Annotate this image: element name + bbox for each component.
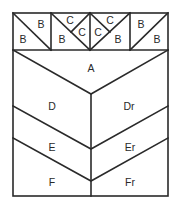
label-sq3-left: C (94, 26, 102, 38)
label-sq2-lower: B (58, 33, 65, 45)
sq4-diagonal (130, 13, 168, 50)
label-sq3-top: C (106, 14, 114, 26)
label-sq2-top: C (66, 14, 74, 26)
label-sq4-lower: B (153, 33, 160, 45)
label-sq2-right: C (78, 26, 86, 38)
label-fr: Fr (125, 176, 135, 188)
label-sq3-lower: B (114, 33, 121, 45)
label-a: A (87, 62, 94, 74)
quilt-block-diagram: B B B C C C C B B B A D Dr E Er F Fr (0, 0, 180, 207)
label-er: Er (125, 141, 136, 153)
label-dr: Dr (123, 100, 135, 112)
label-sq1-upper: B (37, 18, 44, 30)
label-e: E (48, 141, 55, 153)
label-sq1-lower: B (19, 33, 26, 45)
label-sq4-upper: B (137, 18, 144, 30)
label-f: F (49, 176, 55, 188)
label-d: D (48, 100, 56, 112)
